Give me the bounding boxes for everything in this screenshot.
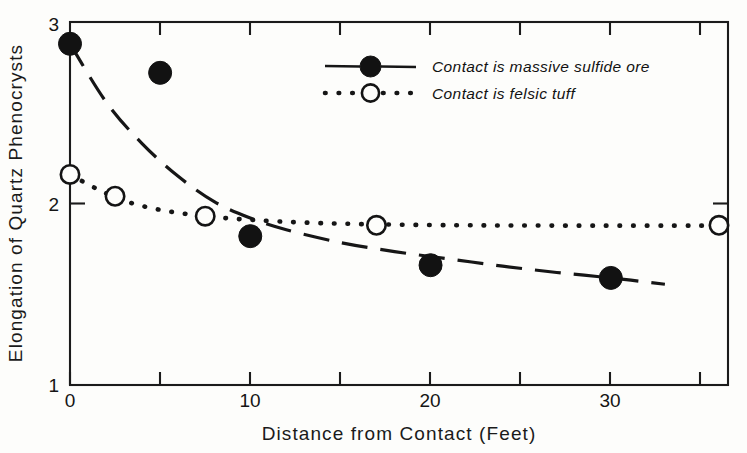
- legend-label-felsic-tuff: Contact is felsic tuff: [432, 85, 576, 102]
- data-point-filled: [419, 254, 442, 277]
- legend-marker-open-circle: [362, 84, 379, 101]
- x-tick-label-30: 30: [599, 390, 620, 411]
- chart-svg: 3 2 1 0 10 20 30 Distance from Contact (…: [0, 0, 747, 453]
- data-point-filled: [239, 225, 262, 248]
- top-axis-ticks: [160, 22, 700, 35]
- x-tick-label-20: 20: [419, 390, 440, 411]
- x-tick-label-0: 0: [65, 390, 76, 411]
- y-tick-label-2: 2: [48, 194, 59, 215]
- chart-figure: 3 2 1 0 10 20 30 Distance from Contact (…: [0, 0, 747, 453]
- legend-entry-felsic-tuff[interactable]: Contact is felsic tuff: [325, 84, 576, 102]
- data-point-open: [61, 165, 79, 183]
- legend: Contact is massive sulfide ore Contact i…: [325, 56, 650, 102]
- data-point-filled: [59, 32, 82, 55]
- y-axis-title: Elongation of Quartz Phenocrysts: [5, 44, 26, 362]
- y-tick-label-3: 3: [48, 14, 59, 35]
- x-axis-title: Distance from Contact (Feet): [262, 423, 537, 444]
- legend-marker-filled-circle: [360, 56, 381, 77]
- data-point-open: [196, 207, 214, 225]
- y-tick-label-1: 1: [48, 375, 59, 396]
- legend-line-right-dashed: [381, 67, 416, 68]
- legend-line-left-dashed: [325, 66, 360, 67]
- legend-label-massive-sulfide: Contact is massive sulfide ore: [432, 58, 650, 75]
- data-point-filled: [599, 266, 622, 289]
- data-point-open: [710, 216, 728, 234]
- data-point-filled: [149, 61, 172, 84]
- legend-entry-massive-sulfide[interactable]: Contact is massive sulfide ore: [325, 56, 650, 77]
- series-felsic-tuff-markers: [61, 165, 728, 234]
- data-point-open: [367, 216, 385, 234]
- data-point-open: [106, 187, 124, 205]
- x-tick-label-10: 10: [239, 390, 260, 411]
- series-felsic-tuff-curve: [70, 174, 719, 225]
